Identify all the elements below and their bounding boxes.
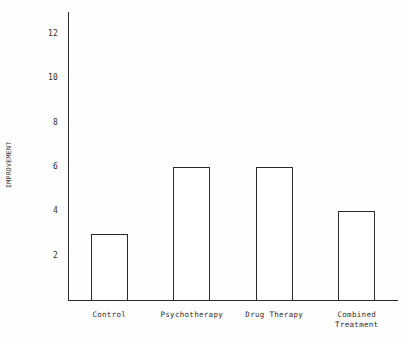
y-axis-tick-labels: 24681012: [0, 0, 58, 340]
x-axis-line: [68, 300, 398, 301]
x-category-label: Combined Treatment: [316, 310, 399, 329]
y-tick-label: 8: [0, 119, 58, 127]
x-category-label: Control: [68, 310, 151, 320]
bar: [173, 167, 210, 300]
plot-area: [68, 12, 398, 300]
x-category-label: Psychotherapy: [151, 310, 234, 320]
bar: [256, 167, 293, 300]
y-tick-label: 2: [0, 252, 58, 260]
y-tick-label: 6: [0, 163, 58, 171]
y-tick-label: 12: [0, 30, 58, 38]
y-tick-label: 10: [0, 74, 58, 82]
x-category-label: Drug Therapy: [233, 310, 316, 320]
y-tick-label: 4: [0, 207, 58, 215]
bar-chart-figure: IMPROVEMENT 24681012 ControlPsychotherap…: [0, 0, 406, 340]
bar: [91, 234, 128, 300]
bar: [338, 211, 375, 300]
